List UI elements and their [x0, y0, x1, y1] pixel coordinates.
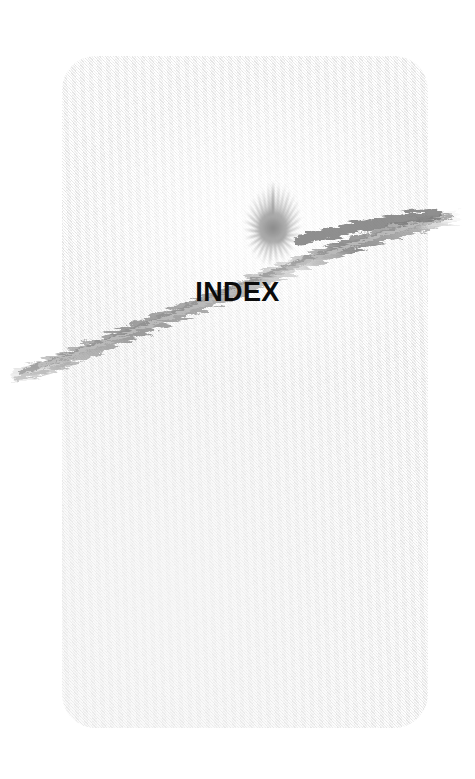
- page-title: INDEX: [0, 279, 475, 306]
- paper-shading: [62, 56, 428, 728]
- paper-card: [62, 56, 428, 728]
- divider-page: INDEX: [0, 0, 475, 779]
